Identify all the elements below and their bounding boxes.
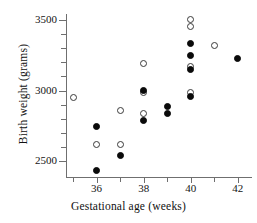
x-axis-line [66, 177, 252, 178]
y-minor-tick-3100 [61, 76, 66, 77]
y-tick-label-2500: 2500 [17, 154, 57, 166]
plot-area: 25003000350036384042 [0, 0, 257, 223]
x-minor-tick-41 [214, 177, 215, 182]
data-point-marker [164, 103, 171, 110]
x-axis-title: Gestational age (weeks) [0, 200, 257, 212]
y-minor-tick-2600 [61, 147, 66, 148]
data-point-marker [164, 110, 171, 117]
y-axis-line [66, 14, 67, 177]
data-point-marker [187, 23, 194, 30]
y-tick-3500 [59, 20, 66, 21]
y-tick-label-3500: 3500 [17, 13, 57, 25]
y-minor-tick-3200 [61, 62, 66, 63]
data-point-marker [140, 60, 147, 67]
data-point-marker [140, 110, 147, 117]
x-tick-label-36: 36 [82, 182, 112, 194]
data-point-marker [93, 167, 100, 174]
x-minor-tick-37 [120, 177, 121, 182]
scatter-plot-figure: Birth weight (grams) 2500300035003638404… [0, 0, 257, 223]
data-point-marker [117, 107, 124, 114]
y-minor-tick-2800 [61, 119, 66, 120]
y-minor-tick-2700 [61, 133, 66, 134]
x-tick-label-38: 38 [129, 182, 159, 194]
y-tick-3000 [59, 91, 66, 92]
x-tick-label-42: 42 [223, 182, 253, 194]
y-tick-label-3000: 3000 [17, 84, 57, 96]
x-minor-tick-39 [167, 177, 168, 182]
data-point-marker [117, 141, 124, 148]
data-point-marker [187, 40, 194, 47]
x-minor-tick-35 [73, 177, 74, 182]
data-point-marker [93, 141, 100, 148]
y-minor-tick-3400 [61, 34, 66, 35]
data-point-marker [140, 117, 147, 124]
data-point-marker [70, 94, 77, 101]
y-tick-2500 [59, 161, 66, 162]
data-point-marker [234, 55, 241, 62]
y-minor-tick-3300 [61, 48, 66, 49]
data-point-marker [117, 152, 124, 159]
data-point-marker [211, 42, 218, 49]
data-point-marker [93, 123, 100, 130]
y-minor-tick-2900 [61, 105, 66, 106]
data-point-marker [187, 66, 194, 73]
data-point-marker [187, 93, 194, 100]
data-point-marker [187, 52, 194, 59]
x-tick-label-40: 40 [176, 182, 206, 194]
